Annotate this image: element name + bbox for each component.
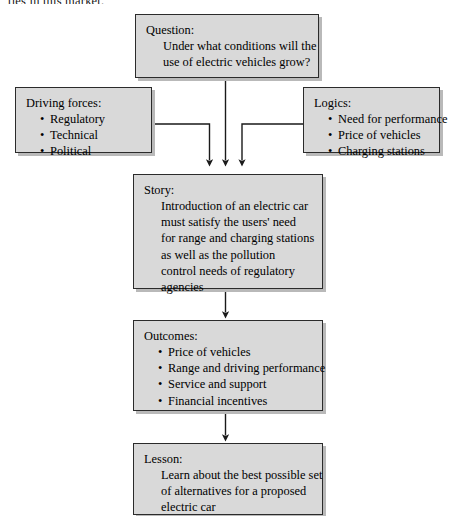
node-lesson-line-3: electric car [144,499,313,515]
node-lesson-line-2: of alternatives for a proposed [144,483,313,499]
node-story-line-1: Introduction of an electric car [144,198,313,214]
node-story-line-6: agencies [144,279,313,295]
node-driving-forces[interactable]: Driving forces: Regulatory Technical Pol… [15,87,152,153]
node-driving-forces-list: Regulatory Technical Political [26,111,142,160]
node-story-line-4: as well as the pollution [144,247,313,263]
node-logics-heading: Logics: [314,95,430,111]
node-story-line-5: control needs of regulatory [144,263,313,279]
node-question-heading: Question: [146,22,309,38]
node-question[interactable]: Question: Under what conditions will the… [135,14,319,78]
node-question-line-2: use of electric vehicles grow? [146,54,309,70]
node-driving-forces-heading: Driving forces: [26,95,142,111]
node-story-line-2: must satisfy the users' need [144,214,313,230]
list-item: Need for performance [338,111,430,127]
list-item: Political [50,143,142,159]
list-item: Financial incentives [168,393,313,409]
node-story-line-3: for range and charging stations [144,230,313,246]
node-question-line-1: Under what conditions will the [146,38,309,54]
list-item: Range and driving performance [168,360,313,376]
list-item: Technical [50,127,142,143]
diagram-canvas: ties in this market. Question: Under wha… [0,0,461,516]
node-lesson-heading: Lesson: [144,451,313,467]
list-item: Service and support [168,376,313,392]
node-lesson[interactable]: Lesson: Learn about the best possible se… [133,443,323,515]
node-logics[interactable]: Logics: Need for performance Price of ve… [303,87,440,153]
list-item: Price of vehicles [168,344,313,360]
node-lesson-line-1: Learn about the best possible set [144,467,313,483]
edge-logics-to-story [242,124,303,161]
list-item: Charging stations [338,143,430,159]
node-logics-list: Need for performance Price of vehicles C… [314,111,430,160]
node-story[interactable]: Story: Introduction of an electric car m… [133,174,323,289]
node-story-heading: Story: [144,182,313,198]
edge-driving-forces-to-story [152,124,210,161]
list-item: Regulatory [50,111,142,127]
node-outcomes[interactable]: Outcomes: Price of vehicles Range and dr… [133,320,323,411]
node-outcomes-list: Price of vehicles Range and driving perf… [144,344,313,409]
node-outcomes-heading: Outcomes: [144,328,313,344]
list-item: Price of vehicles [338,127,430,143]
